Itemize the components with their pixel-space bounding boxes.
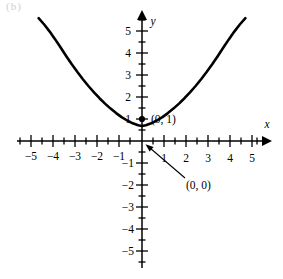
x-tick-label-neg3: −3: [69, 150, 81, 162]
y-tick-label-2: 2: [125, 91, 131, 103]
x-tick-label-2: 2: [183, 152, 189, 164]
y-tick-label-4: 4: [125, 47, 131, 59]
y-tick-label-5: 5: [125, 25, 131, 37]
x-axis-arrowhead-icon: [262, 136, 272, 146]
point-label-0-1: (0, 1): [151, 113, 176, 126]
x-tick-label-neg2: −2: [91, 150, 103, 162]
x-tick-label-5: 5: [249, 152, 255, 164]
x-tick-label-neg4: −4: [47, 150, 59, 162]
point-label-0-0: (0, 0): [186, 179, 211, 192]
parabola-graph-figure: −5 −4 −3 −2 −1 1 2 3 4 5 5 4 3 2 1 −1 −2…: [0, 0, 283, 279]
y-axis-label: y: [149, 15, 156, 28]
y-tick-label-3: 3: [125, 69, 131, 81]
y-tick-label-neg1: −1: [122, 157, 134, 169]
y-axis-arrowhead-icon: [137, 10, 147, 20]
y-tick-label-neg3: −3: [122, 201, 134, 213]
x-tick-label-3: 3: [205, 152, 211, 164]
x-axis-label: x: [263, 118, 270, 130]
x-tick-label-4: 4: [227, 152, 233, 164]
x-tick-label-1: 1: [161, 152, 167, 164]
coordinate-plane-svg: −5 −4 −3 −2 −1 1 2 3 4 5 5 4 3 2 1 −1 −2…: [0, 0, 283, 279]
point-marker-0-1: [139, 116, 145, 122]
y-tick-label-1: 1: [125, 113, 131, 125]
x-tick-label-neg5: −5: [25, 150, 37, 162]
y-tick-label-neg4: −4: [122, 223, 134, 235]
y-tick-label-neg2: −2: [122, 179, 134, 191]
y-tick-label-neg5: −5: [122, 245, 134, 257]
origin-leader-line: [150, 148, 185, 178]
